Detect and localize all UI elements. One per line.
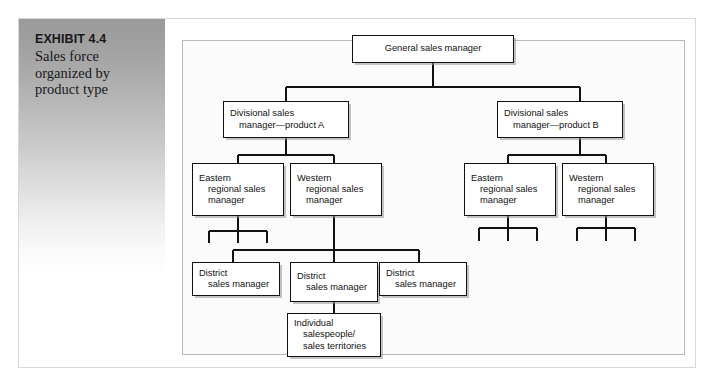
node-district-sales-manager-3[interactable]: District sales manager bbox=[379, 262, 467, 296]
node-line: Divisional sales bbox=[230, 108, 348, 119]
node-district-sales-manager-1[interactable]: District sales manager bbox=[192, 262, 280, 296]
node-line: sales manager bbox=[386, 279, 466, 290]
node-line: Western bbox=[297, 173, 381, 184]
node-district-sales-manager-2[interactable]: District sales manager bbox=[290, 262, 378, 302]
node-line: salespeople/ bbox=[294, 329, 380, 340]
node-line: Individual bbox=[294, 318, 380, 329]
node-western-regional-sales-manager-b[interactable]: Western regional sales manager bbox=[562, 163, 654, 216]
node-line: regional sales bbox=[297, 184, 381, 195]
exhibit-caption-panel: EXHIBIT 4.4 Sales force organized by pro… bbox=[19, 19, 165, 367]
exhibit-title: EXHIBIT 4.4 bbox=[35, 32, 155, 47]
node-line: District bbox=[297, 271, 377, 282]
exhibit-page: EXHIBIT 4.4 Sales force organized by pro… bbox=[0, 0, 714, 386]
node-line: regional sales bbox=[569, 184, 653, 195]
node-line: manager—product A bbox=[230, 120, 348, 131]
node-line: regional sales bbox=[471, 184, 555, 195]
node-line: manager bbox=[471, 195, 555, 206]
exhibit-description: Sales force organized by product type bbox=[35, 48, 155, 98]
node-line: manager—product B bbox=[504, 120, 622, 131]
node-line: regional sales bbox=[199, 184, 283, 195]
node-divisional-sales-manager-product-a[interactable]: Divisional sales manager—product A bbox=[223, 101, 349, 138]
node-individual-salespeople-sales-territories[interactable]: Individual salespeople/ sales territorie… bbox=[287, 313, 381, 357]
node-eastern-regional-sales-manager-a[interactable]: Eastern regional sales manager bbox=[192, 163, 284, 216]
node-line: sales manager bbox=[297, 282, 377, 293]
node-line: Eastern bbox=[199, 173, 283, 184]
node-line: General sales manager bbox=[385, 43, 482, 54]
exhibit-description-line-2: organized by bbox=[35, 65, 155, 82]
node-divisional-sales-manager-product-b[interactable]: Divisional sales manager—product B bbox=[497, 101, 623, 138]
node-line: manager bbox=[297, 195, 381, 206]
node-western-regional-sales-manager-a[interactable]: Western regional sales manager bbox=[290, 163, 382, 216]
node-line: sales territories bbox=[294, 341, 380, 352]
node-line: manager bbox=[569, 195, 653, 206]
node-line: Divisional sales bbox=[504, 108, 622, 119]
node-line: District bbox=[386, 268, 466, 279]
node-line: sales manager bbox=[199, 279, 279, 290]
node-line: Eastern bbox=[471, 173, 555, 184]
exhibit-description-line-1: Sales force bbox=[35, 48, 155, 65]
node-eastern-regional-sales-manager-b[interactable]: Eastern regional sales manager bbox=[464, 163, 556, 216]
node-line: manager bbox=[199, 195, 283, 206]
node-line: District bbox=[199, 268, 279, 279]
node-line: Western bbox=[569, 173, 653, 184]
node-general-sales-manager[interactable]: General sales manager bbox=[352, 35, 514, 63]
exhibit-description-line-3: product type bbox=[35, 81, 155, 98]
